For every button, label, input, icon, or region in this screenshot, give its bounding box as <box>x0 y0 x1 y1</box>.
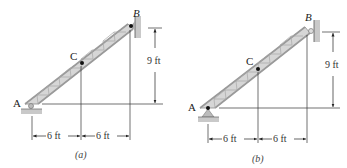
figure-b: 9 ft 6 ft 6 ft A B C (b) <box>188 11 340 165</box>
truss-a <box>25 24 133 104</box>
point-b-a <box>129 24 133 28</box>
label-c-a: C <box>70 50 77 62</box>
figure-a: 9 ft 6 ft 6 ft A B C (a) <box>13 7 163 161</box>
point-c-b <box>256 67 260 71</box>
dim-horizontal-right-a: 6 ft <box>96 130 110 141</box>
truss-b <box>200 27 310 108</box>
label-b-b: B <box>305 11 312 23</box>
label-a-b: A <box>188 101 196 113</box>
dim-horizontal-left-a: 6 ft <box>47 130 61 141</box>
dim-vertical-a: 9 ft <box>147 55 161 66</box>
caption-b: (b) <box>252 153 264 165</box>
ground-a-a <box>21 109 42 114</box>
wall-b-b <box>314 20 320 42</box>
roller-a-a <box>29 104 34 109</box>
dim-horizontal-right-b: 6 ft <box>273 133 287 144</box>
label-b-a: B <box>133 7 140 19</box>
caption-a: (a) <box>75 149 87 161</box>
roller-b-b <box>309 29 314 34</box>
dim-horizontal-left-b: 6 ft <box>223 133 237 144</box>
point-c-a <box>80 61 84 65</box>
label-c-b: C <box>246 55 253 67</box>
wall-b-a <box>135 16 141 38</box>
point-a-b <box>206 106 210 110</box>
pin-support-a-b <box>202 109 214 117</box>
label-a-a: A <box>13 97 21 109</box>
dim-vertical-b: 9 ft <box>325 59 339 70</box>
ground-a-b <box>198 117 219 122</box>
